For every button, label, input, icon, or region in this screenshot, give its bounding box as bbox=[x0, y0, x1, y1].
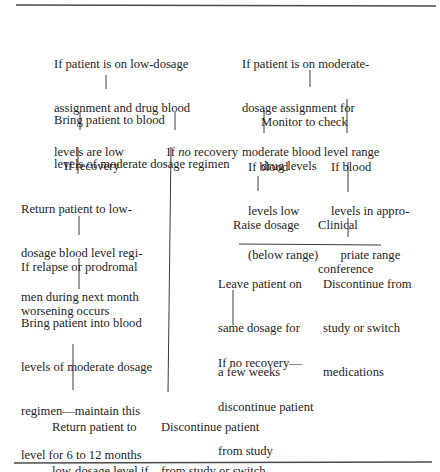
flowchart: If patient is on low-dosage assignment a… bbox=[0, 0, 440, 472]
node-line: from study bbox=[218, 444, 313, 459]
node-line: low-dosage level if bbox=[52, 464, 149, 472]
node-line: Bring patient to blood bbox=[54, 113, 230, 128]
node-line: If patient is on low-dosage bbox=[54, 57, 190, 72]
node-no-recovery-discontinue: If no recovery— discontinue patient from… bbox=[218, 327, 313, 472]
node-line: If blood bbox=[331, 160, 409, 175]
node-line: If relapse or prodromal bbox=[21, 260, 137, 275]
node-line: If blood bbox=[248, 160, 318, 175]
node-line: Discontinue from bbox=[323, 277, 412, 292]
node-line: If patient is on moderate- bbox=[242, 57, 379, 72]
node-line: If no recovery— bbox=[218, 356, 313, 371]
text-suffix: recovery bbox=[191, 145, 238, 159]
node-if-no-recovery: If no recovery bbox=[154, 130, 238, 174]
node-line: If recovery bbox=[64, 159, 120, 174]
text-emphasis: no bbox=[178, 145, 191, 159]
node-line: Raise dosage bbox=[233, 218, 299, 233]
node-line: medications bbox=[323, 365, 412, 380]
text-prefix: If bbox=[167, 145, 179, 159]
node-line: discontinue patient bbox=[218, 400, 313, 415]
node-line: Return patient to bbox=[52, 420, 149, 435]
node-line: study or switch bbox=[323, 321, 412, 336]
node-discontinue-from-study: Discontinue from study or switch medicat… bbox=[323, 248, 412, 409]
node-return-low-final: Return patient to low-dosage level if no… bbox=[52, 391, 149, 472]
node-line: Monitor to check bbox=[261, 115, 348, 130]
node-line: Leave patient on bbox=[218, 277, 302, 292]
top-rule bbox=[16, 5, 436, 6]
node-line: Return patient to low- bbox=[21, 202, 142, 217]
node-line: Bring patient into blood bbox=[21, 316, 152, 331]
node-line: levels of moderate dosage bbox=[21, 360, 152, 375]
node-line: Clinical bbox=[318, 218, 373, 233]
